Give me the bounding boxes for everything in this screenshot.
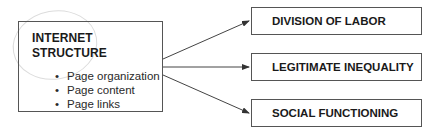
source-title: INTERNET STRUCTURE (32, 31, 107, 61)
bullet-item: •Page content (55, 83, 160, 97)
social-functioning-box: SOCIAL FUNCTIONING (251, 99, 422, 127)
target-label: SOCIAL FUNCTIONING (272, 107, 398, 119)
bullet-text: Page links (67, 98, 120, 110)
bullet-dot-icon: • (55, 69, 59, 83)
target-label: DIVISION OF LABOR (272, 15, 386, 27)
legitimate-inequality-box: LEGITIMATE INEQUALITY (251, 53, 422, 81)
bullet-item: •Page links (55, 97, 160, 111)
bullet-text: Page content (67, 84, 135, 96)
arrow-to-division-of-labor (163, 21, 249, 59)
bullet-dot-icon: • (55, 83, 59, 97)
bullet-text: Page organization (67, 70, 160, 82)
division-of-labor-box: DIVISION OF LABOR (251, 7, 422, 35)
title-line-2: STRUCTURE (32, 46, 107, 61)
internet-structure-box: INTERNET STRUCTURE •Page organization •P… (18, 21, 163, 112)
target-label: LEGITIMATE INEQUALITY (272, 61, 414, 73)
bullet-dot-icon: • (55, 97, 59, 111)
title-line-1: INTERNET (32, 31, 107, 46)
arrow-to-social-functioning (163, 75, 249, 113)
bullet-list: •Page organization •Page content •Page l… (55, 69, 160, 111)
bullet-item: •Page organization (55, 69, 160, 83)
